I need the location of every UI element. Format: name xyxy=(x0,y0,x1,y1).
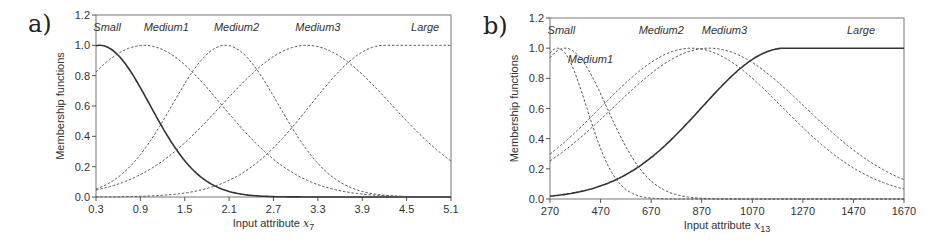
y-tick-label: 1.0 xyxy=(75,39,90,51)
x-axis-title: Input attribute x7 xyxy=(233,217,315,232)
y-tick-label: 0.2 xyxy=(529,163,544,175)
curve-small xyxy=(550,48,904,199)
x-tick-label: 470 xyxy=(591,205,609,217)
chart-panel-b: b) 0.00.20.40.60.81.01.22704706708701070… xyxy=(471,0,942,249)
series-label-medium3: Medium3 xyxy=(702,24,748,36)
x-tick-label: 3.9 xyxy=(355,203,370,215)
series-label-medium2: Medium2 xyxy=(214,21,259,33)
series-label-large: Large xyxy=(847,24,875,36)
curve-medium1 xyxy=(550,48,904,199)
y-tick-label: 0.4 xyxy=(529,133,544,145)
plot-frame xyxy=(550,18,904,199)
x-tick-label: 670 xyxy=(642,205,660,217)
x-tick-label: 1070 xyxy=(740,205,764,217)
x-tick-label: 3.3 xyxy=(310,203,325,215)
x-tick-label: 4.5 xyxy=(399,203,414,215)
x-tick-label: 0.9 xyxy=(133,203,148,215)
x-tick-label: 1.5 xyxy=(177,203,192,215)
series-label-medium1: Medium1 xyxy=(568,53,613,65)
x-tick-label: 2.1 xyxy=(221,203,236,215)
curve-medium1 xyxy=(96,45,451,197)
chart-panel-a: a) 0.00.20.40.60.81.01.20.30.91.52.12.73… xyxy=(0,0,471,249)
x-tick-label: 1470 xyxy=(841,205,865,217)
curve-medium3 xyxy=(550,48,904,179)
chart-a-svg: 0.00.20.40.60.81.01.20.30.91.52.12.73.33… xyxy=(0,0,471,249)
y-tick-label: 0.2 xyxy=(75,161,90,173)
y-tick-label: 0.4 xyxy=(75,130,90,142)
series-label-medium2: Medium2 xyxy=(639,24,684,36)
x-tick-label: 5.1 xyxy=(443,203,458,215)
y-tick-label: 0.6 xyxy=(529,103,544,115)
series-label-medium3: Medium3 xyxy=(295,21,341,33)
y-tick-label: 1.2 xyxy=(75,9,90,21)
curve-large xyxy=(96,45,451,197)
y-axis-title: Membership functions xyxy=(508,54,520,162)
curve-medium2 xyxy=(550,48,904,189)
x-tick-label: 0.3 xyxy=(88,203,103,215)
series-label-large: Large xyxy=(411,21,439,33)
y-axis-title: Membership functions xyxy=(54,52,66,160)
curve-large xyxy=(550,48,904,196)
series-label-small: Small xyxy=(548,24,576,36)
y-tick-label: 0.8 xyxy=(75,70,90,82)
x-tick-label: 1270 xyxy=(791,205,815,217)
x-tick-label: 2.7 xyxy=(266,203,281,215)
x-tick-label: 1670 xyxy=(892,205,916,217)
curve-small xyxy=(96,45,451,197)
x-axis-title: Input attribute x13 xyxy=(684,219,771,234)
series-label-small: Small xyxy=(93,21,121,33)
curve-medium3 xyxy=(96,45,451,190)
y-tick-label: 0.8 xyxy=(529,72,544,84)
y-tick-label: 0.0 xyxy=(529,193,544,205)
chart-b-svg: 0.00.20.40.60.81.01.22704706708701070127… xyxy=(471,0,942,249)
y-tick-label: 1.0 xyxy=(529,42,544,54)
x-tick-label: 870 xyxy=(693,205,711,217)
series-label-medium1: Medium1 xyxy=(144,21,189,33)
y-tick-label: 0.0 xyxy=(75,191,90,203)
curve-medium2 xyxy=(96,45,451,197)
y-tick-label: 0.6 xyxy=(75,100,90,112)
x-tick-label: 270 xyxy=(541,205,559,217)
y-tick-label: 1.2 xyxy=(529,12,544,24)
